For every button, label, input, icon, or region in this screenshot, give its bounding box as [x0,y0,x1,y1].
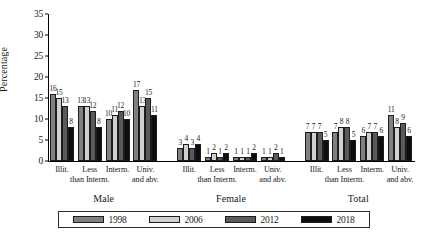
bar[interactable] [406,136,412,161]
legend-label: 2006 [184,215,202,225]
bar[interactable] [96,127,102,161]
legend-swatch [149,216,180,223]
bar-slot: 8 [96,14,102,161]
bar-group: 10111210 [104,14,132,161]
x-category-label-line: than Interm. [197,175,237,185]
legend: 1998200620122018 [58,211,370,228]
bar-group: 7885 [331,14,359,161]
bar-value-label: 11 [151,106,158,114]
bar[interactable] [251,153,257,161]
bar-value-label: 8 [340,118,343,126]
bar-group: 6776 [358,14,386,161]
bar-slot: 11 [151,14,157,161]
bar-group: 1112 [231,14,259,161]
bar-group: 11896 [386,14,414,161]
bar-value-label: 7 [368,123,371,131]
bar-value-label: 7 [334,123,337,131]
x-category-label-line: and abv. [253,175,293,185]
bar[interactable] [195,144,201,161]
bar-value-label: 1 [240,148,243,156]
bar-group-bars: 1121 [259,14,287,161]
bar-group-bars: 7775 [303,14,331,161]
bar-slot: 5 [323,14,329,161]
bar-slot: 4 [195,14,201,161]
legend-label: 2012 [260,215,278,225]
x-category-label-line: Univ. [253,165,293,175]
bar-value-label: 8 [346,118,349,126]
bar-slot: 5 [350,14,356,161]
bar-value-label: 10 [123,110,130,118]
bar-group: 1121 [259,14,287,161]
legend-item[interactable]: 1998 [73,215,126,225]
x-group-label: Female [175,193,286,204]
bar-value-label: 5 [352,131,355,139]
bar-value-label: 1 [218,148,221,156]
bar[interactable] [151,115,157,161]
x-axis-line [48,161,415,162]
bar-value-label: 9 [401,114,404,122]
legend-item[interactable]: 2006 [149,215,202,225]
bar-value-label: 3 [191,139,194,147]
bar-chart-figure: Percentage 05101520253035 16151381313128… [0,0,428,239]
bar[interactable] [323,140,329,161]
bar-group-bars: 6776 [358,14,386,161]
legend-swatch [73,216,104,223]
bar-value-label: 1 [234,148,237,156]
y-axis-label: Percentage [0,47,12,92]
bar[interactable] [68,127,74,161]
plot-area: 05101520253035 1615138131312810111210171… [48,14,414,161]
bar-value-label: 6 [380,127,383,135]
bar-group-bars: 3434 [175,14,203,161]
bar[interactable] [350,140,356,161]
bar-value-label: 1 [280,148,283,156]
bar[interactable] [223,153,229,161]
x-category-label-line: Univ. [380,165,420,175]
bar-value-label: 6 [407,127,410,135]
bar-group-bars: 1313128 [76,14,104,161]
bar[interactable] [378,136,384,161]
bar[interactable] [279,157,285,161]
bar-group-bars: 7885 [331,14,359,161]
bar-group: 1313128 [76,14,104,161]
bar-value-label: 1 [268,148,271,156]
bar-group-bars: 1212 [203,14,231,161]
bar-value-label: 3 [179,139,182,147]
bar-value-label: 7 [374,123,377,131]
bar-value-label: 2 [252,144,255,152]
bar-value-label: 8 [97,118,100,126]
bar-slot: 8 [68,14,74,161]
bar-group: 17131511 [132,14,160,161]
bar-group: 1615138 [48,14,76,161]
legend-item[interactable]: 2018 [301,215,354,225]
bar-value-label: 2 [274,144,277,152]
x-category-label-line: than Interm. [325,175,365,185]
legend-label: 1998 [108,215,126,225]
bar-slot: 6 [378,14,384,161]
bar-group: 1212 [203,14,231,161]
x-category-label-line: Univ. [126,165,166,175]
bar-slot: 6 [406,14,412,161]
bar-group-bars: 1615138 [48,14,76,161]
legend-swatch [301,216,332,223]
bar-group-bars: 1112 [231,14,259,161]
x-category-label-line: than Interm. [70,175,110,185]
bar-value-label: 5 [324,131,327,139]
bar-value-label: 7 [312,123,315,131]
x-group-label: Male [48,193,159,204]
bar-value-label: 8 [69,118,72,126]
bar-value-label: 7 [306,123,309,131]
bar-slot: 2 [223,14,229,161]
bar-value-label: 8 [395,118,398,126]
bar-value-label: 1 [206,148,209,156]
legend-item[interactable]: 2012 [225,215,278,225]
x-category-label: Univ.and abv. [126,165,166,184]
bar-group: 7775 [303,14,331,161]
bar-group-bars: 11896 [386,14,414,161]
x-category-label-line: and abv. [126,175,166,185]
bar-slot: 1 [279,14,285,161]
bar-group-bars: 10111210 [104,14,132,161]
bar-value-label: 2 [224,144,227,152]
bar-slot: 10 [124,14,130,161]
bar[interactable] [124,119,130,161]
bar-value-label: 1 [246,148,249,156]
